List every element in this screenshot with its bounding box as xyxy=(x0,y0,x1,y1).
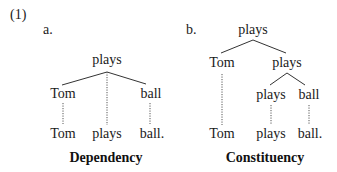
dep-edge-root-tom xyxy=(62,72,107,85)
con-edge-root-plays xyxy=(253,40,286,53)
con-edge-root-tom xyxy=(221,40,253,53)
con-leaf-ball: ball. xyxy=(298,126,323,141)
dependency-caption: Dependency xyxy=(69,150,142,165)
constituency-caption: Constituency xyxy=(226,150,305,165)
dependency-tree: a. plays Tom ball Tom plays ball. Depend… xyxy=(43,22,164,165)
dep-leaf-tom: Tom xyxy=(50,126,76,141)
con-node-tom: Tom xyxy=(209,55,235,70)
con-edge-plays-ball xyxy=(287,73,305,85)
constituency-tree: b. plays Tom plays plays ball Tom plays … xyxy=(186,22,322,165)
syntax-tree-diagram: (1) a. plays Tom ball Tom plays ball. De… xyxy=(0,0,337,172)
con-node-plays: plays xyxy=(256,87,286,102)
con-root-node: plays xyxy=(238,22,268,37)
dep-node-ball: ball xyxy=(141,86,162,101)
con-node-plays-phrase: plays xyxy=(272,55,302,70)
con-leaf-tom: Tom xyxy=(209,126,235,141)
dep-leaf-ball: ball. xyxy=(140,126,165,141)
con-node-ball: ball xyxy=(299,87,320,102)
dep-node-tom: Tom xyxy=(50,86,76,101)
con-edge-plays-plays xyxy=(270,73,287,85)
con-leaf-plays: plays xyxy=(256,126,286,141)
dep-edge-root-ball xyxy=(107,72,146,84)
example-number: (1) xyxy=(10,7,27,23)
panel-b-label: b. xyxy=(186,22,197,37)
dep-leaf-plays: plays xyxy=(92,126,122,141)
panel-a-label: a. xyxy=(43,22,53,37)
dep-root-node: plays xyxy=(92,52,122,67)
